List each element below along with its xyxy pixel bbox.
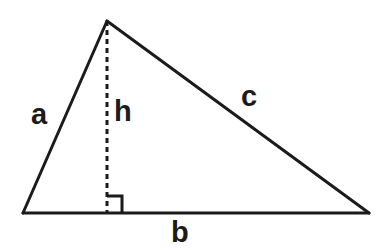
right-angle-marker-icon	[107, 196, 122, 213]
label-side-a: a	[31, 100, 47, 129]
triangle-side-c-line	[107, 21, 369, 213]
label-height-h: h	[114, 97, 132, 126]
label-base-b: b	[171, 218, 189, 247]
label-side-c: c	[241, 82, 257, 111]
triangle-figure-svg	[0, 0, 388, 250]
triangle-diagram: a h c b	[0, 0, 388, 250]
